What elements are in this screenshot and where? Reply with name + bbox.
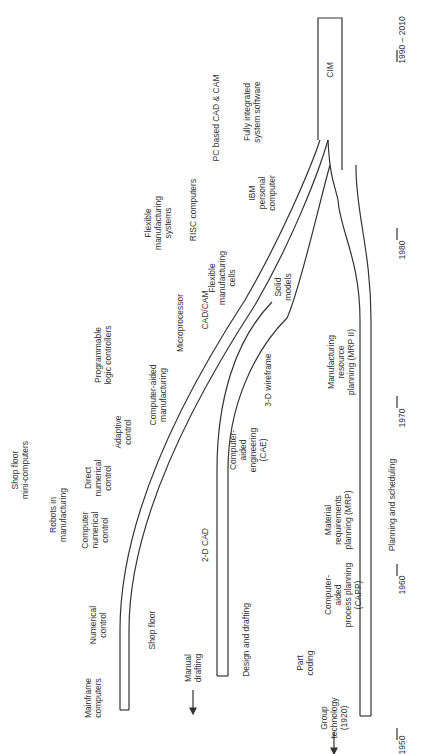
milestone: Flexible manufacturing systems [143,196,173,250]
cim-label: CIM [325,62,335,78]
stream-label-shop-floor: Shop floor [147,611,157,650]
milestone: 2-D CAD [200,528,210,562]
milestone: Material requirements planning (MRP) [323,490,353,549]
milestone: Computer-aided manufacturing [148,365,168,426]
milestone: RISC computers [188,179,198,241]
tick-1960: 1960 [397,576,407,595]
milestone: IBM personal computer [247,175,277,210]
milestone: Manufacturing resource planning (MRP II) [326,329,356,395]
stream-label-planning: Planning and scheduling [387,459,397,552]
milestone: Numerical control [88,606,108,644]
milestone: Adaptive control [113,415,133,448]
milestone: Direct numerical control [83,460,113,497]
milestone: PC based CAD & CAM [211,75,221,162]
origin-group-technology: Group technology (1920) [319,697,349,738]
milestone: Flexible manufacturing cells [207,251,237,305]
milestone: Part coding [295,650,315,675]
milestone: Fully integrated system software [242,81,262,142]
cim-trunk [318,18,342,170]
tick-1990-2010: 1990 – 2010 [397,16,407,63]
tick-1980: 1980 [397,241,407,260]
milestone: Shop floor mini-computers [10,441,30,499]
milestone: Programmable logic controllers [93,325,113,384]
milestone: 3-D wireframe [263,353,273,406]
milestone: Computer- aided engineering (CAE) [228,428,268,472]
milestone: Computer numerical control [80,511,110,548]
milestone: Microprocessor [175,294,185,352]
milestone: Robots in manufacturing [48,488,68,542]
stream-label-design: Design and drafting [241,603,251,677]
planning-stream [338,200,360,716]
origin-manual-drafting: Manual drafting [183,654,203,682]
milestone: Computer- aided process planning (CAPP) [323,563,363,627]
milestone: Solid models [273,273,293,300]
tick-1950: 1950 [397,736,407,754]
tick-1970: 1970 [397,409,407,428]
milestone: Mainframe computers [83,678,103,718]
